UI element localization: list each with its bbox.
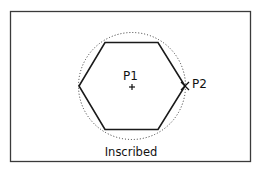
inscribed-polygon-diagram: P1 P2 Inscribed	[0, 0, 263, 171]
radius-point-label: P2	[192, 77, 207, 91]
caption: Inscribed	[105, 145, 158, 159]
center-label: P1	[123, 69, 138, 83]
